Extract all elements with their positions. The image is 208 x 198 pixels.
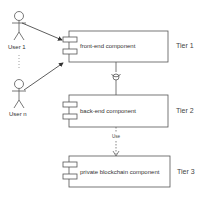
component-blockchain-label: private blockchain component — [80, 169, 159, 175]
use-dependency-arrow — [113, 127, 119, 156]
arrow-usern-frontend — [24, 63, 63, 90]
tier2-label: Tier 2 — [176, 107, 194, 114]
tier1-label: Tier 1 — [176, 42, 194, 49]
actor-usern-icon — [12, 80, 26, 109]
actor-user1-icon — [12, 12, 26, 41]
interface-ball-socket-icon — [112, 62, 121, 95]
component-frontend-label: front-end component — [80, 43, 135, 49]
actor-user1-label: User 1 — [8, 44, 26, 50]
actor-usern-label: User n — [9, 111, 27, 117]
arrow-user1-frontend — [22, 23, 62, 40]
use-label: Use — [112, 135, 120, 140]
tier3-label: Tier 3 — [177, 168, 195, 175]
component-backend-label: back-end component — [80, 108, 136, 114]
